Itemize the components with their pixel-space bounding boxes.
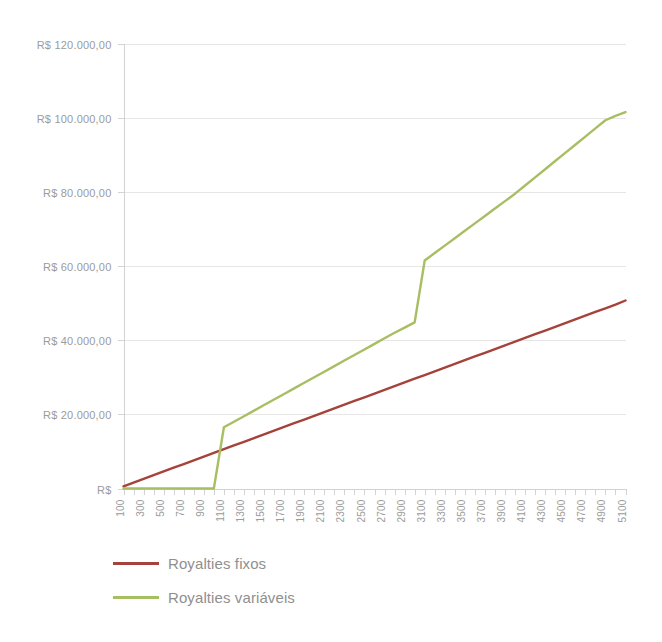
x-tick-label: 300 (135, 499, 146, 517)
chart-legend: Royalties fixos Royalties variáveis (113, 546, 533, 614)
x-tick-label: 2300 (335, 499, 346, 522)
y-tick-label: R$ (97, 484, 111, 496)
x-tick-label: 2700 (376, 499, 387, 522)
y-tick-label: R$ 20.000,00 (43, 409, 111, 421)
x-tick-label: 2900 (396, 499, 407, 522)
series-line-royalties-fixos (124, 300, 626, 486)
x-tick-label: 2100 (315, 499, 326, 522)
x-tick-label: 4300 (536, 499, 547, 522)
y-tick-label: R$ 120.000,00 (37, 39, 112, 51)
legend-label-royalties-fixos: Royalties fixos (168, 555, 266, 572)
y-axis-tick-labels: R$R$ 20.000,00R$ 40.000,00R$ 60.000,00R$… (37, 39, 112, 496)
y-tick-label: R$ 40.000,00 (43, 335, 111, 347)
y-tick-label: R$ 100.000,00 (37, 113, 112, 125)
gridlines (124, 45, 626, 490)
series-line-royalties-variaveis (124, 112, 626, 488)
legend-item-royalties-fixos[interactable]: Royalties fixos (113, 546, 533, 580)
x-tick-label: 1100 (215, 499, 226, 522)
x-tick-label: 900 (195, 499, 206, 517)
x-tick-label: 3300 (436, 499, 447, 522)
x-tick-label: 3500 (456, 499, 467, 522)
legend-swatch-royalties-variaveis (113, 596, 159, 599)
x-tick-label: 3100 (416, 499, 427, 522)
x-tick-label: 1500 (255, 499, 266, 522)
x-tick-label: 500 (155, 499, 166, 517)
legend-item-royalties-variaveis[interactable]: Royalties variáveis (113, 580, 533, 614)
axis-tick-marks (118, 45, 627, 495)
x-tick-label: 4100 (516, 499, 527, 522)
data-series (124, 112, 626, 488)
x-axis-tick-labels: 1003005007009001100130015001700190021002… (115, 499, 628, 522)
y-tick-label: R$ 80.000,00 (43, 187, 111, 199)
x-tick-label: 1300 (235, 499, 246, 522)
x-tick-label: 700 (175, 499, 186, 517)
legend-label-royalties-variaveis: Royalties variáveis (168, 589, 295, 606)
x-tick-label: 100 (115, 499, 126, 517)
x-tick-label: 3700 (476, 499, 487, 522)
x-tick-label: 5100 (617, 499, 628, 522)
legend-swatch-royalties-fixos (113, 562, 159, 565)
y-tick-label: R$ 60.000,00 (43, 261, 111, 273)
x-tick-label: 1900 (295, 499, 306, 522)
x-tick-label: 1700 (275, 499, 286, 522)
x-tick-label: 4500 (556, 499, 567, 522)
x-tick-label: 2500 (356, 499, 367, 522)
x-tick-label: 4700 (576, 499, 587, 522)
x-tick-label: 4900 (596, 499, 607, 522)
chart-container: R$R$ 20.000,00R$ 40.000,00R$ 60.000,00R$… (0, 0, 662, 642)
x-tick-label: 3900 (496, 499, 507, 522)
